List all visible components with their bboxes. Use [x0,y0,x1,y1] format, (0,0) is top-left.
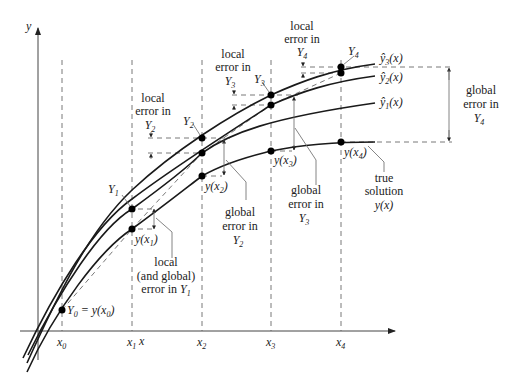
label-yx1: y(x1) [134,232,158,248]
svg-text:global: global [225,205,256,219]
label-yx2: y(x2) [204,179,228,195]
curve-labels: ŷ3(x) ŷ2(x) ŷ1(x) [379,51,403,111]
label-y2-hat: ŷ2(x) [379,70,403,86]
svg-text:solution: solution [365,184,404,198]
annotation-local-error-Y3: local error in Y3 [215,47,251,90]
svg-text:error in: error in [463,97,499,111]
annotation-global-error-Y2: global error in Y2 [222,205,258,249]
label-Y0: Y0 = y(x0) [67,303,114,319]
svg-text:Y4: Y4 [474,111,485,127]
svg-text:error in: error in [222,219,258,233]
label-yx4: y(x4) [343,145,367,161]
svg-text:global: global [291,183,322,197]
svg-text:error in: error in [135,104,171,118]
point-Y2 [199,135,206,142]
svg-text:global: global [466,83,497,97]
point-Y0 [59,307,66,314]
point-Y4-base [338,70,345,77]
label-y1-hat: ŷ1(x) [379,95,403,111]
svg-text:x4: x4 [335,335,345,351]
point-Y2-base [199,150,206,157]
annotation-true-solution: true solution y(x) [365,171,404,212]
point-Y1 [129,206,136,213]
label-y3-hat: ŷ3(x) [379,51,403,67]
label-yx3: y(x3) [273,153,297,169]
svg-text:x3: x3 [265,335,275,351]
svg-text:x2: x2 [196,335,206,351]
svg-text:Y3: Y3 [299,211,310,227]
svg-text:error in: error in [288,197,324,211]
svg-text:x0: x0 [56,335,66,351]
svg-text:x1: x1 [126,335,136,351]
euler-error-diagram: y x x x0 x1 x2 x3 x4 [0,0,509,385]
label-Y4: Y4 [348,44,359,60]
svg-text:local: local [154,255,178,269]
x-axis-label-visible: x [138,334,145,348]
point-Y3 [268,92,275,99]
x-tick-labels: x0 x1 x2 x3 x4 [56,335,345,351]
annotation-local-global-error-Y1: local (and global) error in Y1 [137,255,195,298]
point-labels: Y0 = y(x0) Y1 Y2 Y3 Y4 y(x1) y(x2) y(x3)… [67,44,367,319]
annotation-local-error-Y4: local error in Y4 [284,19,320,61]
svg-text:error in: error in [215,60,251,74]
svg-text:true: true [375,171,394,185]
label-Y1: Y1 [108,182,119,198]
svg-text:Y3: Y3 [225,74,236,90]
svg-text:error in Y1: error in Y1 [141,282,190,298]
svg-text:local: local [290,19,314,33]
label-Y3: Y3 [254,72,265,88]
y-axis-label: y [25,19,32,33]
svg-text:Y4: Y4 [297,45,308,61]
svg-text:error in: error in [284,32,320,46]
svg-text:(and global): (and global) [137,269,195,283]
svg-text:local: local [221,47,245,61]
point-Y3-base [268,102,275,109]
annotation-global-error-Y3: global error in Y3 [288,183,324,227]
svg-text:Y2: Y2 [233,233,244,249]
curves [23,64,375,372]
svg-text:Y2: Y2 [145,118,156,134]
svg-text:local: local [141,91,165,105]
label-Y2: Y2 [183,114,194,130]
svg-text:y(x): y(x) [374,198,394,212]
annotation-local-error-Y2: local error in Y2 [135,91,171,134]
annotation-global-error-Y4: global error in Y4 [463,83,499,127]
curve-y3-hat [27,64,375,363]
